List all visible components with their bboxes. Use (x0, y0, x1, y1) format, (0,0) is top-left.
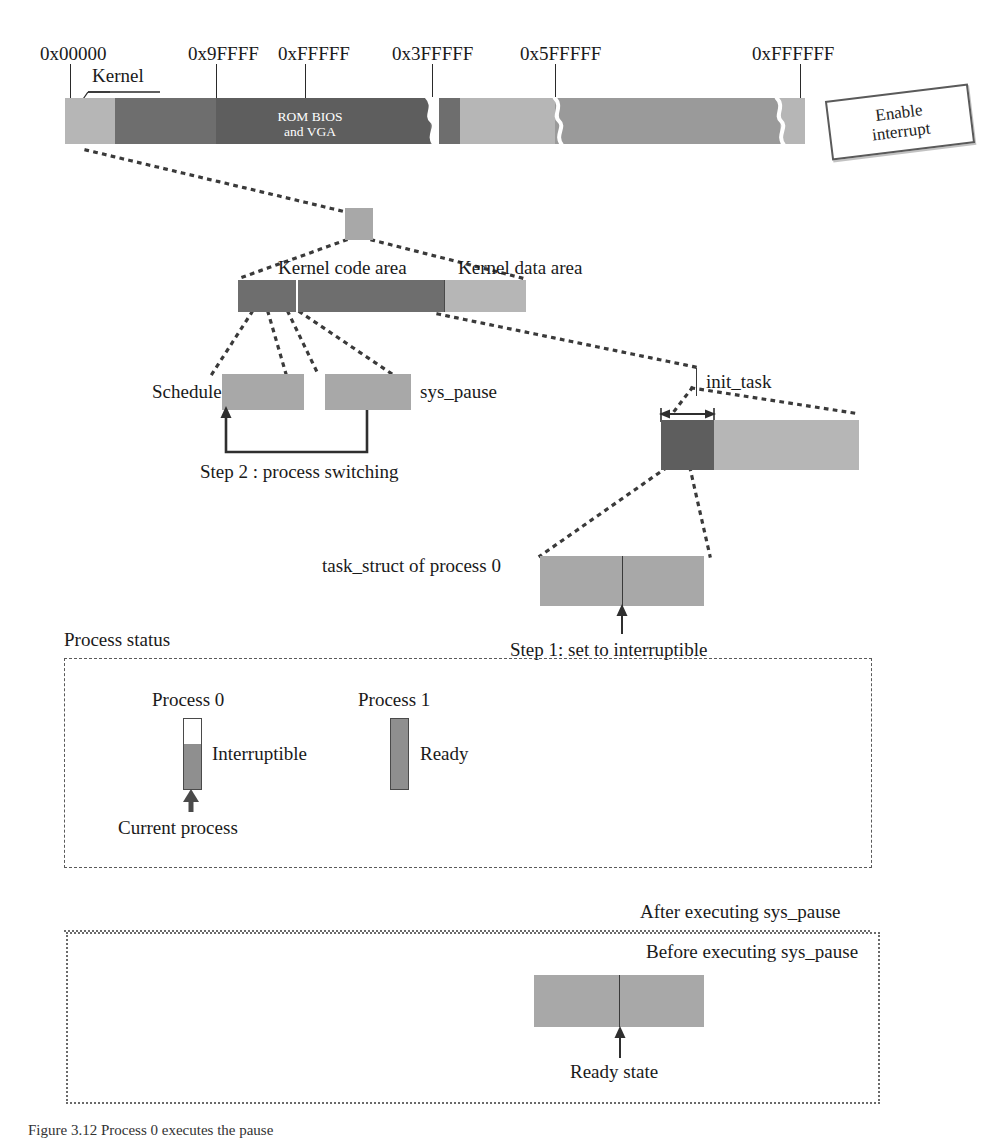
figure-caption: Figure 3.12 Process 0 executes the pause (28, 1122, 273, 1138)
schedule-block (222, 374, 304, 410)
task-struct-label: task_struct of process 0 (322, 556, 501, 575)
address-tick-0xFFFFF (305, 64, 306, 100)
kernel-area-seg-1 (238, 280, 296, 312)
process-1-state-label: Ready (420, 744, 469, 763)
memory-segment-extended-3 (555, 98, 780, 144)
step1-label: Step 1: set to interruptible (510, 640, 707, 659)
schedule-label: Schedule (152, 382, 222, 401)
process-status-title: Process status (64, 630, 170, 649)
enable-interrupt-stamp: Enable interrupt (825, 83, 975, 160)
rom-bios-line1: ROM BIOS (278, 109, 343, 124)
before-executing-box (66, 932, 880, 1104)
process-1-name: Process 1 (358, 690, 430, 709)
address-label-0x9FFFF: 0x9FFFF (188, 44, 259, 63)
address-label-0x00000: 0x00000 (40, 44, 107, 63)
step2-label: Step 2 : process switching (200, 462, 398, 481)
task-struct-state-divider (622, 556, 623, 606)
after-executing-label: After executing sys_pause (640, 902, 841, 921)
init-task-bar (661, 420, 859, 470)
kernel-area-divider-1 (296, 280, 298, 312)
address-label-0x3FFFFF: 0x3FFFFF (392, 44, 473, 63)
kernel-label: Kernel (92, 66, 144, 85)
memory-segment-extended-2 (460, 98, 555, 144)
memory-segment-low-memory (115, 98, 216, 144)
address-tick-0x5FFFFF (555, 64, 556, 100)
process-0-state-bar (183, 718, 202, 790)
process-0-name: Process 0 (152, 690, 224, 709)
address-tick-0x00000 (70, 64, 71, 100)
rom-bios-line2: and VGA (284, 124, 336, 139)
address-tick-0x9FFFF (216, 64, 217, 100)
break-mark-3 (773, 97, 789, 145)
break-mark-1 (423, 97, 439, 145)
sys-pause-label: sys_pause (420, 382, 497, 401)
address-label-0xFFFFFF: 0xFFFFFF (752, 44, 834, 63)
task-struct-bar (540, 556, 704, 606)
process-0-state-label: Interruptible (212, 744, 307, 763)
rom-bios-vga-label: ROM BIOS and VGA (235, 109, 385, 139)
address-label-0xFFFFF: 0xFFFFF (278, 44, 350, 63)
before-task-struct-divider (619, 975, 620, 1027)
break-mark-2 (551, 97, 567, 145)
figure-canvas: 0x00000 0x9FFFF 0xFFFFF 0x3FFFFF 0x5FFFF… (0, 0, 1001, 1138)
address-tick-0xFFFFFF (800, 64, 801, 100)
init-task-tick (696, 368, 697, 396)
kernel-area-seg-2 (298, 280, 444, 312)
kernel-data-area-label: Kernel data area (458, 258, 582, 277)
kernel-area-seg-data (445, 280, 526, 312)
init-task-seg-rest (714, 420, 859, 470)
address-label-0x5FFFFF: 0x5FFFFF (520, 44, 601, 63)
current-process-label: Current process (118, 818, 238, 837)
kernel-code-area-label: Kernel code area (278, 258, 407, 277)
init-task-label: init_task (706, 372, 771, 391)
address-tick-0x3FFFFF (432, 64, 433, 100)
ready-state-label: Ready state (570, 1062, 658, 1081)
process-0-state-fill (184, 744, 201, 789)
kernel-area-bar (238, 280, 526, 312)
memory-segment-kernel (65, 98, 115, 144)
sys-pause-block (325, 374, 411, 410)
kernel-zoom-square (345, 208, 373, 240)
init-task-seg-current (661, 420, 714, 470)
process-1-state-bar (390, 718, 409, 790)
kernel-area-divider-2 (444, 280, 445, 312)
before-task-struct-bar (534, 975, 704, 1027)
memory-bar: ROM BIOS and VGA (65, 98, 805, 144)
